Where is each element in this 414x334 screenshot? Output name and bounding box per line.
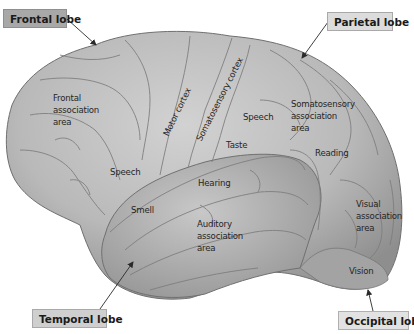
somatosensory-association-area-label: Somatosensory association area [291,98,355,134]
smell-label: Smell [131,204,154,216]
taste-label: Taste [226,139,247,151]
temporal-lobe-label: Temporal lobe [32,309,107,328]
brain-illustration [0,0,414,334]
frontal-association-area-label: Frontal association area [53,92,99,128]
frontal-lobe-label: Frontal lobe [3,9,67,28]
hearing-label: Hearing [198,177,230,189]
arrow-occipital [368,290,373,311]
speech-frontal-label: Speech [110,166,140,178]
parietal-lobe-label: Parietal lobe [327,12,393,31]
vision-label: Vision [349,265,373,277]
auditory-association-area-label: Auditory association area [197,218,243,254]
speech-parietal-label: Speech [243,111,273,123]
arrow-parietal [302,22,328,58]
visual-association-area-label: Visual association area [356,198,402,234]
reading-label: Reading [315,147,348,159]
brain-diagram: Frontal lobe Parietal lobe Temporal lobe… [0,0,414,334]
occipital-lobe-label: Occipital lobe [338,311,409,330]
